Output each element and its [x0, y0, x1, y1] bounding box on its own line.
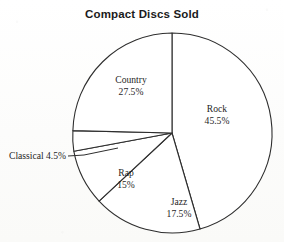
- pie-label-rap: Rap 15%: [104, 167, 148, 190]
- pie-chart-figure: Compact Discs Sold Country 27.5% Rock 45…: [0, 0, 284, 242]
- pie-label-rock-name: Rock: [190, 103, 244, 115]
- pie-label-country-name: Country: [101, 74, 161, 86]
- pie-label-jazz: Jazz 17.5%: [155, 196, 203, 219]
- pie-label-jazz-percent: 17.5%: [155, 208, 203, 220]
- pie-label-jazz-name: Jazz: [155, 196, 203, 208]
- pie-label-rap-name: Rap: [104, 167, 148, 179]
- pie-label-country: Country 27.5%: [101, 74, 161, 97]
- pie-label-country-percent: 27.5%: [101, 86, 161, 98]
- pie-label-rap-percent: 15%: [104, 179, 148, 191]
- pie-label-rock: Rock 45.5%: [190, 103, 244, 126]
- pie-label-classical: Classical 4.5%: [9, 150, 66, 161]
- pie-label-rock-percent: 45.5%: [190, 115, 244, 127]
